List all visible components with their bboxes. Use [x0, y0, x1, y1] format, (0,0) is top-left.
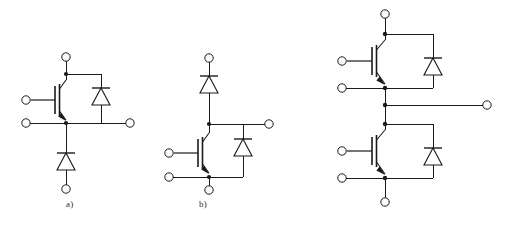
collector-terminal[interactable]: [62, 53, 70, 61]
gate-terminal[interactable]: [22, 96, 30, 104]
figure-label-b: b): [199, 199, 207, 209]
series-diode-b1: [200, 76, 218, 124]
igbt-c-low: [347, 124, 385, 175]
circuit-diagram-canvas: [0, 0, 509, 225]
diode-triangle: [200, 76, 218, 93]
diode-triangle: [424, 148, 442, 165]
output-terminal[interactable]: [483, 101, 491, 109]
freewheel-diode-b2: [234, 124, 252, 177]
output-terminal[interactable]: [126, 119, 134, 127]
diode-triangle: [57, 153, 75, 170]
gate-high-terminal[interactable]: [338, 57, 346, 65]
circuit-b: [165, 54, 273, 194]
diode-triangle: [234, 139, 252, 156]
gate-low-terminal[interactable]: [338, 147, 346, 155]
collector-branch: [203, 133, 210, 142]
emitter-terminal[interactable]: [165, 173, 173, 181]
bottom-terminal[interactable]: [205, 186, 213, 194]
freewheel-diode-c-low: [424, 148, 442, 178]
gate-terminal[interactable]: [165, 149, 173, 157]
collector-branch: [377, 40, 386, 50]
emitter-low-terminal[interactable]: [338, 174, 346, 182]
series-diode-a2: [57, 123, 75, 185]
freewheel-diode-a1: [92, 88, 110, 123]
top-terminal[interactable]: [205, 54, 213, 62]
emitter-terminal[interactable]: [22, 119, 30, 127]
igbt-c-high: [347, 34, 385, 85]
dc-positive-terminal[interactable]: [381, 10, 389, 18]
bottom-terminal[interactable]: [62, 185, 70, 193]
diode-triangle: [92, 88, 110, 105]
collector-branch: [60, 80, 67, 89]
emitter-high-terminal[interactable]: [338, 84, 346, 92]
diode-triangle: [424, 58, 442, 75]
circuit-figure: a) b): [0, 0, 509, 225]
igbt-a1: [31, 74, 66, 121]
circuit-a: [22, 53, 134, 193]
figure-label-a: a): [66, 199, 73, 209]
collector-terminal[interactable]: [265, 120, 273, 128]
collector-branch: [377, 130, 386, 140]
freewheel-diode-c-high: [424, 58, 442, 88]
igbt-b1: [174, 124, 209, 174]
circuit-c: [338, 10, 491, 206]
dc-negative-terminal[interactable]: [381, 198, 389, 206]
